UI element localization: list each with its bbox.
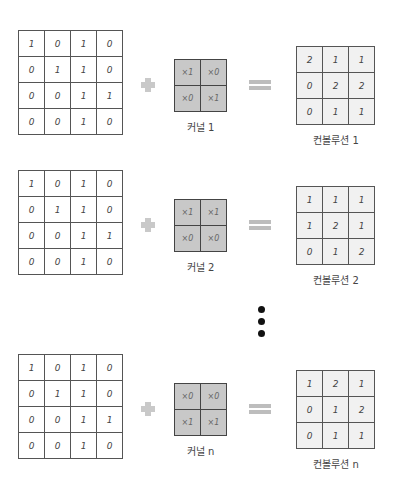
result-matrix-cell: 1 — [297, 187, 323, 213]
plus-operator — [141, 218, 155, 232]
plus-operator — [141, 78, 155, 92]
kernel-label: 커널 1 — [174, 119, 227, 134]
input-matrix-cell: 0 — [45, 407, 71, 433]
input-matrix-cell: 1 — [71, 381, 97, 407]
kernel-label: 커널 2 — [174, 259, 227, 274]
result-matrix-cell: 1 — [349, 47, 375, 73]
input-matrix-cell: 0 — [45, 171, 71, 197]
input-matrix-cell: 1 — [71, 109, 97, 135]
result-matrix-cell: 1 — [297, 213, 323, 239]
equals-operator — [249, 404, 271, 414]
input-matrix-cell: 1 — [19, 171, 45, 197]
input-matrix-cell: 0 — [19, 109, 45, 135]
input-matrix-cell: 0 — [97, 355, 123, 381]
result-matrix-cell: 0 — [297, 397, 323, 423]
kernel-matrix: ×1×1×0×0 — [174, 199, 227, 252]
result-matrix-cell: 1 — [349, 423, 375, 449]
result-matrix-cell: 1 — [349, 187, 375, 213]
input-matrix-cell: 0 — [45, 31, 71, 57]
input-matrix-cell: 0 — [97, 249, 123, 275]
input-matrix-cell: 1 — [71, 31, 97, 57]
input-matrix-cell: 1 — [97, 83, 123, 109]
input-matrix-cell: 0 — [97, 171, 123, 197]
input-matrix-cell: 0 — [97, 57, 123, 83]
kernel-matrix-cell: ×0 — [201, 226, 227, 252]
result-matrix-cell: 0 — [297, 423, 323, 449]
ellipsis-dot — [258, 306, 265, 313]
input-matrix-cell: 1 — [71, 355, 97, 381]
result-matrix-cell: 2 — [323, 371, 349, 397]
kernel-matrix: ×0×0×1×1 — [174, 383, 227, 436]
result-label: 컨볼루션 1 — [296, 132, 376, 147]
input-matrix-cell: 1 — [71, 197, 97, 223]
input-matrix-cell: 1 — [19, 31, 45, 57]
result-matrix-cell: 1 — [349, 213, 375, 239]
kernel-matrix-cell: ×0 — [201, 384, 227, 410]
equals-operator — [249, 80, 271, 90]
input-matrix-cell: 0 — [45, 249, 71, 275]
input-matrix-cell: 0 — [19, 223, 45, 249]
input-matrix-cell: 1 — [71, 223, 97, 249]
result-matrix: 111121012 — [296, 186, 375, 265]
result-matrix-cell: 0 — [297, 239, 323, 265]
input-matrix-cell: 1 — [71, 83, 97, 109]
result-matrix: 121012011 — [296, 370, 375, 449]
input-matrix-cell: 1 — [45, 197, 71, 223]
input-matrix-cell: 1 — [71, 249, 97, 275]
kernel-matrix-cell: ×1 — [175, 60, 201, 86]
result-matrix-cell: 1 — [323, 423, 349, 449]
input-matrix: 1010011000110010 — [18, 354, 123, 459]
input-matrix-cell: 0 — [45, 433, 71, 459]
input-matrix-cell: 0 — [19, 83, 45, 109]
input-matrix-cell: 0 — [97, 433, 123, 459]
input-matrix-cell: 0 — [19, 433, 45, 459]
result-matrix-cell: 2 — [297, 47, 323, 73]
input-matrix-cell: 0 — [97, 31, 123, 57]
equals-operator — [249, 220, 271, 230]
input-matrix-cell: 0 — [19, 57, 45, 83]
kernel-matrix-cell: ×0 — [175, 86, 201, 112]
input-matrix-cell: 0 — [97, 109, 123, 135]
kernel-matrix-cell: ×1 — [201, 200, 227, 226]
result-matrix-cell: 2 — [349, 73, 375, 99]
input-matrix-cell: 0 — [19, 197, 45, 223]
input-matrix-cell: 1 — [71, 57, 97, 83]
ellipsis-dot — [258, 318, 265, 325]
input-matrix-cell: 0 — [19, 381, 45, 407]
plus-operator — [141, 402, 155, 416]
input-matrix-cell: 0 — [97, 381, 123, 407]
result-matrix-cell: 1 — [323, 99, 349, 125]
result-matrix-cell: 0 — [297, 73, 323, 99]
result-matrix: 211022011 — [296, 46, 375, 125]
input-matrix-cell: 0 — [45, 109, 71, 135]
result-matrix-cell: 1 — [323, 187, 349, 213]
input-matrix-cell: 1 — [71, 171, 97, 197]
input-matrix-cell: 1 — [71, 433, 97, 459]
kernel-label: 커널 n — [174, 443, 227, 458]
result-matrix-cell: 1 — [349, 99, 375, 125]
result-matrix-cell: 1 — [349, 371, 375, 397]
kernel-matrix: ×1×0×0×1 — [174, 59, 227, 112]
input-matrix-cell: 0 — [19, 249, 45, 275]
kernel-matrix-cell: ×0 — [175, 226, 201, 252]
result-matrix-cell: 1 — [297, 371, 323, 397]
result-matrix-cell: 2 — [349, 397, 375, 423]
input-matrix-cell: 1 — [19, 355, 45, 381]
kernel-matrix-cell: ×1 — [175, 410, 201, 436]
input-matrix-cell: 0 — [97, 197, 123, 223]
input-matrix-cell: 0 — [19, 407, 45, 433]
result-matrix-cell: 2 — [349, 239, 375, 265]
input-matrix: 1010011000110010 — [18, 170, 123, 275]
result-matrix-cell: 0 — [297, 99, 323, 125]
input-matrix-cell: 1 — [97, 407, 123, 433]
kernel-matrix-cell: ×1 — [175, 200, 201, 226]
kernel-matrix-cell: ×1 — [201, 410, 227, 436]
input-matrix-cell: 1 — [97, 223, 123, 249]
input-matrix-cell: 0 — [45, 223, 71, 249]
kernel-matrix-cell: ×1 — [201, 86, 227, 112]
result-matrix-cell: 2 — [323, 213, 349, 239]
result-matrix-cell: 1 — [323, 239, 349, 265]
result-matrix-cell: 1 — [323, 397, 349, 423]
input-matrix: 1010011000110010 — [18, 30, 123, 135]
result-label: 컨볼루션 n — [296, 456, 376, 471]
